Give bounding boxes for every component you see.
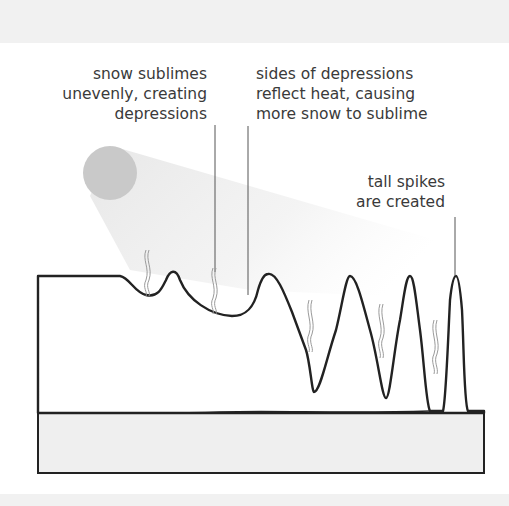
ground-layer [38, 413, 484, 473]
sun-icon [83, 146, 137, 200]
annotation-reflected-heat: sides of depressions reflect heat, causi… [256, 64, 428, 124]
annotation-uneven-sublimation: snow sublimes unevenly, creating depress… [62, 64, 207, 124]
annotation-tall-spikes: tall spikes are created [356, 172, 445, 212]
